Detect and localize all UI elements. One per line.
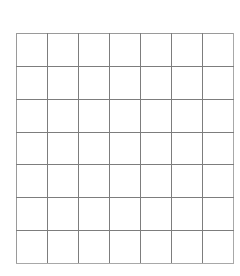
grid-cell[interactable]: [172, 34, 203, 67]
grid-cell[interactable]: [79, 99, 110, 132]
table-row: [17, 198, 234, 231]
grid-cell[interactable]: [141, 99, 172, 132]
grid-cell[interactable]: [203, 231, 234, 264]
grid-cell[interactable]: [79, 198, 110, 231]
grid-cell[interactable]: [48, 165, 79, 198]
grid-cell[interactable]: [110, 66, 141, 99]
page-canvas: [0, 0, 240, 276]
table-row: [17, 165, 234, 198]
grid-cell[interactable]: [141, 165, 172, 198]
grid-cell[interactable]: [48, 99, 79, 132]
grid-cell[interactable]: [172, 99, 203, 132]
grid-cell[interactable]: [203, 198, 234, 231]
table-row: [17, 99, 234, 132]
grid-cell[interactable]: [110, 231, 141, 264]
grid-cell[interactable]: [172, 231, 203, 264]
grid-container: [16, 33, 226, 256]
grid-cell[interactable]: [110, 34, 141, 67]
grid-cell[interactable]: [17, 34, 48, 67]
grid-cell[interactable]: [172, 198, 203, 231]
grid-cell[interactable]: [141, 231, 172, 264]
grid-cell[interactable]: [17, 99, 48, 132]
grid-cell[interactable]: [203, 66, 234, 99]
grid-cell[interactable]: [79, 66, 110, 99]
grid-cell[interactable]: [79, 34, 110, 67]
grid-cell[interactable]: [141, 66, 172, 99]
table-row: [17, 66, 234, 99]
grid-cell[interactable]: [110, 165, 141, 198]
grid-cell[interactable]: [110, 132, 141, 165]
table-row: [17, 132, 234, 165]
grid-cell[interactable]: [48, 231, 79, 264]
grid-cell[interactable]: [79, 132, 110, 165]
grid-body: [17, 34, 234, 264]
grid-cell[interactable]: [48, 66, 79, 99]
grid-cell[interactable]: [203, 99, 234, 132]
grid-cell[interactable]: [141, 132, 172, 165]
grid-cell[interactable]: [203, 34, 234, 67]
grid-cell[interactable]: [172, 66, 203, 99]
table-row: [17, 231, 234, 264]
grid-cell[interactable]: [17, 165, 48, 198]
grid-cell[interactable]: [172, 165, 203, 198]
grid-cell[interactable]: [17, 66, 48, 99]
table-row: [17, 34, 234, 67]
grid-cell[interactable]: [79, 165, 110, 198]
grid-cell[interactable]: [79, 231, 110, 264]
grid-cell[interactable]: [203, 165, 234, 198]
blank-grid[interactable]: [16, 33, 234, 264]
grid-cell[interactable]: [203, 132, 234, 165]
grid-cell[interactable]: [48, 132, 79, 165]
grid-cell[interactable]: [17, 231, 48, 264]
grid-cell[interactable]: [141, 34, 172, 67]
grid-cell[interactable]: [48, 198, 79, 231]
grid-cell[interactable]: [110, 198, 141, 231]
grid-cell[interactable]: [141, 198, 172, 231]
grid-cell[interactable]: [172, 132, 203, 165]
grid-cell[interactable]: [17, 132, 48, 165]
grid-cell[interactable]: [17, 198, 48, 231]
grid-cell[interactable]: [110, 99, 141, 132]
grid-cell[interactable]: [48, 34, 79, 67]
